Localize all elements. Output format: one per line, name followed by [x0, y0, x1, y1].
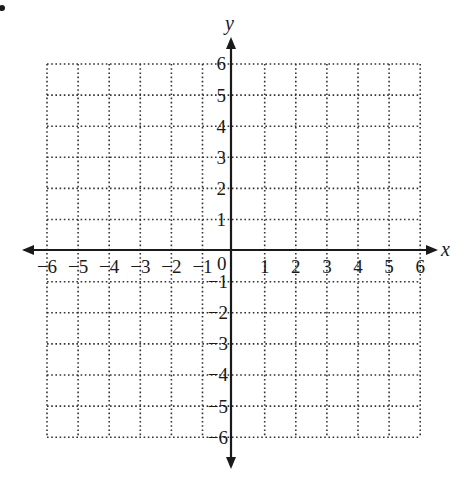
y-tick-label: 3 [217, 147, 227, 168]
y-axis-up-arrow-icon [226, 37, 236, 49]
bullet-dot [0, 5, 5, 11]
x-tick-label: 6 [415, 256, 425, 277]
y-tick-label: 6 [217, 53, 227, 74]
x-tick-label: 1 [260, 256, 270, 277]
x-tick-label: 2 [291, 256, 301, 277]
y-tick-label: 4 [217, 116, 227, 137]
x-tick-label: 3 [322, 256, 332, 277]
y-tick-label: −6 [208, 427, 228, 448]
x-axis-left-arrow-icon [22, 245, 34, 255]
x-tick-label: −5 [68, 256, 88, 277]
y-tick-label: −5 [208, 396, 228, 417]
x-tick-label: −2 [161, 256, 181, 277]
axes [22, 37, 438, 469]
y-tick-label: −4 [208, 364, 229, 385]
coordinate-plane: x y 0 −6−5−4−3−2−1123456123456−1−2−3−4−5… [0, 0, 462, 479]
x-tick-label: 4 [353, 256, 363, 277]
y-tick-label: 1 [217, 209, 227, 230]
x-tick-label: 5 [384, 256, 394, 277]
y-tick-label: 2 [217, 178, 227, 199]
y-tick-label: −2 [208, 302, 228, 323]
y-tick-label: −3 [208, 333, 228, 354]
y-tick-label: 5 [217, 85, 227, 106]
x-tick-label: −6 [37, 256, 57, 277]
y-tick-label: −1 [208, 271, 228, 292]
x-axis-right-arrow-icon [426, 245, 438, 255]
y-axis-label: y [223, 12, 234, 35]
x-tick-label: −4 [99, 256, 120, 277]
x-tick-label: −3 [130, 256, 150, 277]
x-axis-label: x [440, 238, 450, 260]
y-axis-down-arrow-icon [226, 457, 236, 469]
